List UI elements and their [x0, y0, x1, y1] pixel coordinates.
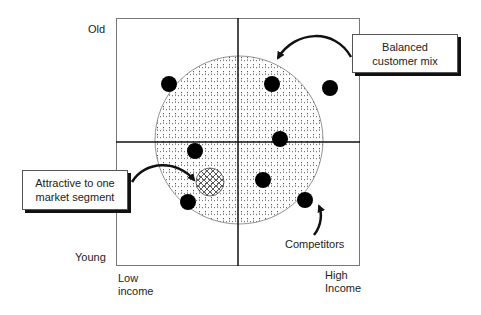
competitor-dot	[322, 80, 338, 96]
competitor-dot	[161, 76, 177, 92]
low-income-line1: Low	[118, 272, 153, 285]
low-income-line2: income	[118, 285, 153, 298]
competitor-dot	[187, 143, 203, 159]
balanced-line1: Balanced	[353, 40, 457, 54]
segment-circle	[196, 168, 224, 196]
high-income-line2: Income	[325, 282, 361, 295]
segment-callout: Attractive to one market segment	[22, 170, 128, 210]
balanced-line2: customer mix	[353, 54, 457, 68]
low-income-label: Low income	[118, 272, 153, 298]
competitor-dot	[264, 76, 280, 92]
competitor-dot	[255, 172, 271, 188]
competitor-dot	[297, 192, 313, 208]
competitors-arrow	[314, 206, 321, 235]
high-income-label: High Income	[325, 269, 361, 295]
young-label: Young	[75, 251, 106, 264]
old-label: Old	[88, 23, 105, 36]
competitor-dot	[180, 194, 196, 210]
balanced-arrow	[278, 36, 351, 58]
high-income-line1: High	[325, 269, 361, 282]
segment-line2: market segment	[23, 190, 127, 204]
competitor-dot	[272, 131, 288, 147]
balanced-mix-callout: Balanced customer mix	[352, 34, 458, 73]
competitors-label: Competitors	[285, 238, 344, 251]
segment-line1: Attractive to one	[23, 176, 127, 190]
